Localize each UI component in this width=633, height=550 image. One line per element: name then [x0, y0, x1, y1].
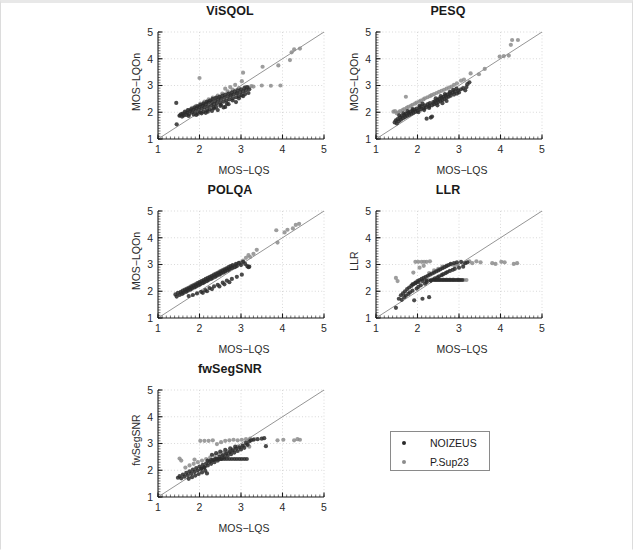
y-axis-label-fwsegsnr: fwSegSNR	[130, 390, 142, 490]
svg-text:3: 3	[238, 501, 244, 513]
svg-text:1: 1	[373, 143, 379, 155]
svg-text:1: 1	[365, 312, 371, 324]
y-axis-label-visqol: MOS−LQOn	[130, 32, 142, 132]
svg-text:4: 4	[498, 143, 504, 155]
svg-text:1: 1	[147, 312, 153, 324]
svg-text:5: 5	[147, 205, 153, 217]
svg-text:4: 4	[280, 143, 286, 155]
svg-text:5: 5	[539, 143, 545, 155]
svg-text:2: 2	[147, 464, 153, 476]
svg-text:1: 1	[155, 143, 161, 155]
svg-text:5: 5	[365, 26, 371, 38]
y-axis-label-polqa: MOS−LQOn	[130, 211, 142, 311]
svg-text:4: 4	[498, 322, 504, 334]
panel-title-fwsegsnr: fwSegSNR	[130, 362, 330, 376]
svg-text:5: 5	[321, 501, 327, 513]
svg-text:4: 4	[147, 53, 153, 65]
x-axis-label-llr: MOS−LQS	[376, 343, 548, 355]
plot-area-pesq: 1234512345	[348, 4, 548, 179]
x-axis-label-polqa: MOS−LQS	[158, 343, 330, 355]
plot-area-llr: 1234512345	[348, 183, 548, 358]
svg-text:3: 3	[147, 437, 153, 449]
svg-text:3: 3	[456, 143, 462, 155]
svg-text:3: 3	[147, 79, 153, 91]
panel-title-visqol: ViSQOL	[130, 4, 330, 18]
svg-text:5: 5	[539, 322, 545, 334]
panel-pesq: 1234512345 PESQ MOS−LQOn MOS−LQS	[348, 4, 548, 179]
svg-text:2: 2	[415, 143, 421, 155]
y-axis-label-pesq: MOS−LQOn	[348, 32, 360, 132]
panel-title-pesq: PESQ	[348, 4, 548, 18]
svg-text:3: 3	[365, 258, 371, 270]
svg-text:2: 2	[197, 322, 203, 334]
plot-area-fwsegsnr: 1234512345	[130, 362, 330, 537]
legend: NOIZEUS P.Sup23	[390, 431, 490, 471]
svg-text:3: 3	[147, 258, 153, 270]
svg-text:1: 1	[373, 322, 379, 334]
svg-text:3: 3	[365, 79, 371, 91]
legend-label-noizeus: NOIZEUS	[430, 437, 477, 449]
legend-label-psup23: P.Sup23	[430, 456, 469, 468]
x-axis-label-visqol: MOS−LQS	[158, 164, 330, 176]
panel-visqol: 1234512345 ViSQOL MOS−LQOn MOS−LQS	[130, 4, 330, 179]
svg-text:3: 3	[456, 322, 462, 334]
svg-text:2: 2	[197, 501, 203, 513]
plot-area-visqol: 1234512345	[130, 4, 330, 179]
svg-text:4: 4	[365, 232, 371, 244]
panel-fwsegsnr: 1234512345 fwSegSNR fwSegSNR MOS−LQS	[130, 362, 330, 537]
svg-text:5: 5	[147, 26, 153, 38]
svg-text:2: 2	[365, 106, 371, 118]
svg-text:3: 3	[238, 143, 244, 155]
x-axis-label-pesq: MOS−LQS	[376, 164, 548, 176]
svg-text:4: 4	[147, 411, 153, 423]
legend-item-noizeus: NOIZEUS	[391, 433, 489, 452]
svg-text:5: 5	[321, 143, 327, 155]
y-axis-label-llr: LLR	[348, 211, 360, 311]
legend-item-psup23: P.Sup23	[391, 452, 489, 471]
svg-text:2: 2	[197, 143, 203, 155]
panel-title-polqa: POLQA	[130, 183, 330, 197]
svg-text:4: 4	[147, 232, 153, 244]
panel-llr: 1234512345 LLR LLR MOS−LQS	[348, 183, 548, 358]
svg-text:4: 4	[280, 501, 286, 513]
svg-text:1: 1	[155, 501, 161, 513]
svg-text:5: 5	[147, 384, 153, 396]
svg-text:1: 1	[365, 133, 371, 145]
svg-text:3: 3	[238, 322, 244, 334]
svg-text:1: 1	[147, 133, 153, 145]
plot-area-polqa: 1234512345	[130, 183, 330, 358]
svg-text:4: 4	[280, 322, 286, 334]
x-axis-label-fwsegsnr: MOS−LQS	[158, 522, 330, 534]
svg-text:5: 5	[321, 322, 327, 334]
legend-marker-noizeus	[391, 441, 417, 445]
svg-text:4: 4	[365, 53, 371, 65]
svg-text:5: 5	[365, 205, 371, 217]
svg-text:2: 2	[147, 106, 153, 118]
svg-text:2: 2	[147, 285, 153, 297]
legend-marker-psup23	[391, 460, 417, 464]
svg-text:1: 1	[155, 322, 161, 334]
svg-text:1: 1	[147, 491, 153, 503]
panel-title-llr: LLR	[348, 183, 548, 197]
svg-text:2: 2	[415, 322, 421, 334]
panel-polqa: 1234512345 POLQA MOS−LQOn MOS−LQS	[130, 183, 330, 358]
svg-text:2: 2	[365, 285, 371, 297]
